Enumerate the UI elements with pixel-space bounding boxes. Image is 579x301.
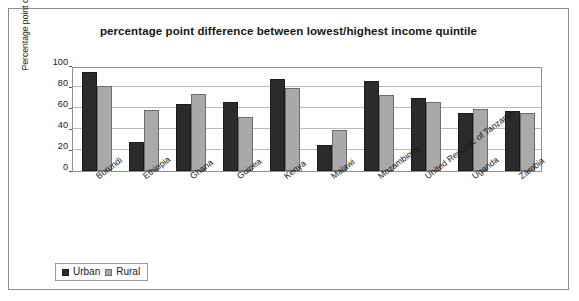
bar-rural[interactable] xyxy=(379,95,394,171)
bar-rural[interactable] xyxy=(191,94,206,171)
legend-entry[interactable]: Urban xyxy=(62,267,100,277)
legend-swatch-rural xyxy=(105,269,112,276)
x-tick-label: Mozambique xyxy=(376,173,382,181)
y-axis-title: Percentage point difference xyxy=(18,0,32,71)
x-tick-label: Ethiopia xyxy=(141,173,147,181)
bar-group xyxy=(129,68,159,171)
y-tick-label: 60 xyxy=(42,100,68,109)
x-tick-label: Ghana xyxy=(188,173,194,181)
y-tick-label: 80 xyxy=(42,79,68,88)
chart-title: percentage point difference between lowe… xyxy=(9,25,568,37)
bar-rural[interactable] xyxy=(285,88,300,171)
bar-urban[interactable] xyxy=(129,142,144,171)
y-tick-label: 40 xyxy=(42,121,68,130)
bar-group xyxy=(317,68,347,171)
plot-area xyxy=(72,67,542,172)
bar-group xyxy=(270,68,300,171)
bar-urban[interactable] xyxy=(411,98,426,172)
x-tick-label: Malawi xyxy=(329,173,335,181)
bar-urban[interactable] xyxy=(317,145,332,171)
x-tick-label: Guinea xyxy=(235,173,241,181)
legend-label: Urban xyxy=(73,267,100,277)
bar-group xyxy=(176,68,206,171)
x-tick-label: United Republic of Tanzania xyxy=(423,173,429,181)
bar-urban[interactable] xyxy=(364,81,379,171)
x-axis-tick-labels: BurundiEthiopiaGhanaGuineaKenyaMalawiMoz… xyxy=(72,173,542,253)
y-tick-label: 0 xyxy=(42,163,68,172)
x-tick-label: Kenya xyxy=(282,173,288,181)
bar-group xyxy=(223,68,253,171)
x-tick-label: Burundi xyxy=(94,173,100,181)
bar-group xyxy=(364,68,394,171)
bar-urban[interactable] xyxy=(223,102,238,171)
y-axis-tick-labels: 020406080100 xyxy=(38,67,68,172)
y-tick-label: 100 xyxy=(42,58,68,67)
y-tick-label: 20 xyxy=(42,142,68,151)
x-tick-label: Uganda xyxy=(470,173,476,181)
legend-swatch-urban xyxy=(62,269,69,276)
legend-entry[interactable]: Rural xyxy=(105,267,140,277)
x-tick-label: Zambia xyxy=(517,173,523,181)
bar-urban[interactable] xyxy=(176,104,191,171)
chart-legend: UrbanRural xyxy=(55,263,148,281)
legend-label: Rural xyxy=(116,267,140,277)
bar-urban[interactable] xyxy=(82,72,97,171)
bar-rural[interactable] xyxy=(97,86,112,171)
chart-frame: percentage point difference between lowe… xyxy=(8,8,569,290)
bar-urban[interactable] xyxy=(270,79,285,171)
bar-group xyxy=(82,68,112,171)
